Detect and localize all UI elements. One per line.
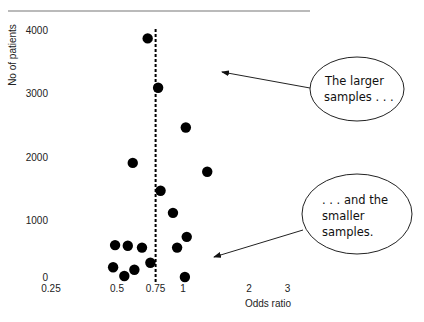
data-point — [202, 167, 212, 177]
annotation-line: samples. — [322, 225, 373, 239]
callout-ellipse — [310, 57, 404, 121]
annotation-line: The larger — [324, 74, 384, 88]
y-tick-label: 1000 — [26, 215, 49, 226]
arrow-icon — [222, 72, 310, 88]
annotation-line: . . . and the — [322, 193, 388, 207]
x-tick-label: 0.5 — [110, 283, 124, 294]
y-tick-label: 2000 — [26, 152, 49, 163]
y-axis-label: No of patients — [7, 24, 18, 86]
annotation-line: smaller — [322, 209, 365, 223]
data-point — [123, 241, 133, 251]
data-point — [128, 158, 138, 168]
y-tick-label: 3000 — [26, 88, 49, 99]
x-tick-label: 0.75 — [146, 283, 166, 294]
data-point — [137, 242, 147, 252]
data-point — [110, 240, 120, 250]
data-point — [182, 232, 192, 242]
x-axis-label: Odds ratio — [245, 298, 292, 309]
data-point — [181, 122, 191, 132]
data-point — [168, 208, 178, 218]
data-point — [155, 186, 165, 196]
annotation-larger: The larger samples . . . — [222, 57, 404, 121]
arrow-icon — [214, 230, 303, 257]
data-point — [153, 83, 163, 93]
data-point — [129, 265, 139, 275]
x-axis-ticks: 0.250.50.75123 — [41, 283, 291, 294]
x-tick-label: 2 — [246, 283, 252, 294]
data-point — [172, 242, 182, 252]
annotation-line: samples . . . — [324, 90, 394, 104]
data-point — [180, 272, 190, 282]
x-tick-label: 0.25 — [41, 283, 61, 294]
funnel-plot: No of patients 01000200030004000 0.250.5… — [0, 0, 424, 322]
y-tick-label: 0 — [42, 272, 48, 283]
data-point — [142, 33, 152, 43]
data-point — [145, 258, 155, 268]
y-axis-ticks: 01000200030004000 — [26, 25, 49, 283]
data-point — [108, 262, 118, 272]
annotation-smaller: . . . and the smaller samples. — [214, 174, 412, 257]
data-point — [119, 271, 129, 281]
y-tick-label: 4000 — [26, 25, 49, 36]
x-tick-label: 1 — [180, 283, 186, 294]
x-tick-label: 3 — [285, 283, 291, 294]
data-points — [108, 33, 213, 282]
